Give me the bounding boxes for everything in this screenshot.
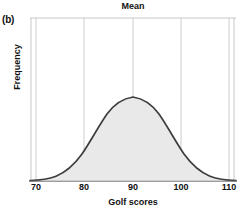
x-axis-label: Golf scores <box>30 197 236 207</box>
x-tick-label-90: 90 <box>120 183 146 193</box>
x-tick-label-80: 80 <box>71 183 97 193</box>
x-tick-label-100: 100 <box>168 183 194 193</box>
distribution-fill <box>30 97 236 181</box>
x-tick-label-110: 110 <box>216 183 242 193</box>
figure-panel: (b) Mean Frequency 70 80 90 100 110 Golf… <box>0 0 244 213</box>
x-tick-label-70: 70 <box>23 183 49 193</box>
